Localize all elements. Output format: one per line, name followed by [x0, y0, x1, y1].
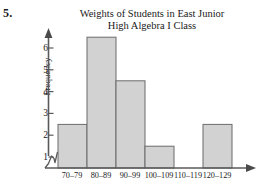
bar-90-99 — [116, 81, 145, 168]
bar-100-109 — [145, 146, 174, 168]
histogram-figure: 5. Weights of Students in East Junior Hi… — [0, 0, 261, 189]
bar-70-79 — [58, 124, 87, 168]
bar-80-89 — [87, 37, 116, 168]
histogram-plot-area — [0, 0, 261, 189]
bars-group — [58, 37, 232, 168]
y-axis — [45, 28, 58, 168]
bar-120-129 — [203, 124, 232, 168]
